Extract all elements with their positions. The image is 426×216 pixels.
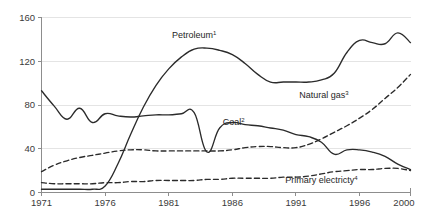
series-lines <box>42 33 411 190</box>
chart-figure: 04080120160 1971197619811986199119962000… <box>0 0 426 216</box>
x-tick-label: 1981 <box>158 197 179 208</box>
gridlines <box>42 18 411 149</box>
y-tick-label: 80 <box>24 99 35 110</box>
line-chart: 04080120160 1971197619811986199119962000… <box>0 0 426 216</box>
series-inline-labels: Petroleum1Coal2Natural gas3Primary elect… <box>172 30 358 184</box>
x-tick-label: 2000 <box>393 197 414 208</box>
series-line-petroleum <box>42 33 411 190</box>
y-tick-label: 160 <box>19 12 35 23</box>
y-tick-label: 40 <box>24 143 35 154</box>
x-tick-label: 1986 <box>222 197 243 208</box>
series-label-footnote: 2 <box>241 117 245 123</box>
y-tick-label: 120 <box>19 56 35 67</box>
series-label-footnote: 3 <box>345 90 349 96</box>
series-line-coal <box>42 91 411 170</box>
x-tick-label: 1991 <box>285 197 306 208</box>
series-label-petroleum: Petroleum1 <box>172 30 217 40</box>
x-tick-label: 1976 <box>95 197 116 208</box>
x-tick-label: 1996 <box>349 197 370 208</box>
x-axis-tick-labels: 1971197619811986199119962000 <box>31 197 415 208</box>
y-axis-tick-labels: 04080120160 <box>19 12 35 198</box>
x-tick-label: 1971 <box>31 197 52 208</box>
series-label-primary-electricty: Primary electricty4 <box>285 175 358 185</box>
series-label-natural-gas: Natural gas3 <box>299 90 349 100</box>
series-label-footnote: 1 <box>213 30 217 36</box>
series-label-footnote: 4 <box>354 175 358 181</box>
series-label-coal: Coal2 <box>223 117 246 127</box>
